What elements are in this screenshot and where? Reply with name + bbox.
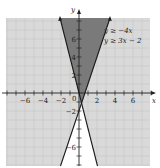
x-tick-label: −2 xyxy=(56,97,66,105)
x-tick-label: 4 xyxy=(113,97,118,105)
x-tick-label: −4 xyxy=(38,97,49,105)
inequality-graph: y x 0 −6−4−2246 642−2−6 y ≥ −4x y ≥ 3x −… xyxy=(0,0,160,168)
x-tick-label: 6 xyxy=(131,97,136,105)
inequality-label-1: y ≥ −4x xyxy=(103,27,133,35)
x-axis-arrow-icon xyxy=(151,91,156,95)
inequality-label-2: y ≥ 3x − 2 xyxy=(103,37,142,45)
y-axis-label: y xyxy=(70,6,76,14)
origin-label: 0 xyxy=(72,95,76,103)
y-tick-label: −2 xyxy=(66,108,76,116)
y-tick-label: 6 xyxy=(72,36,77,44)
x-tick-label: −6 xyxy=(20,97,31,105)
y-axis-arrow-icon xyxy=(77,9,81,14)
y-tick-label: 4 xyxy=(72,54,77,62)
y-tick-label: −6 xyxy=(66,144,77,152)
y-tick-label: 2 xyxy=(72,72,76,80)
x-tick-label: 2 xyxy=(95,97,99,105)
x-axis-label: x xyxy=(152,97,156,105)
